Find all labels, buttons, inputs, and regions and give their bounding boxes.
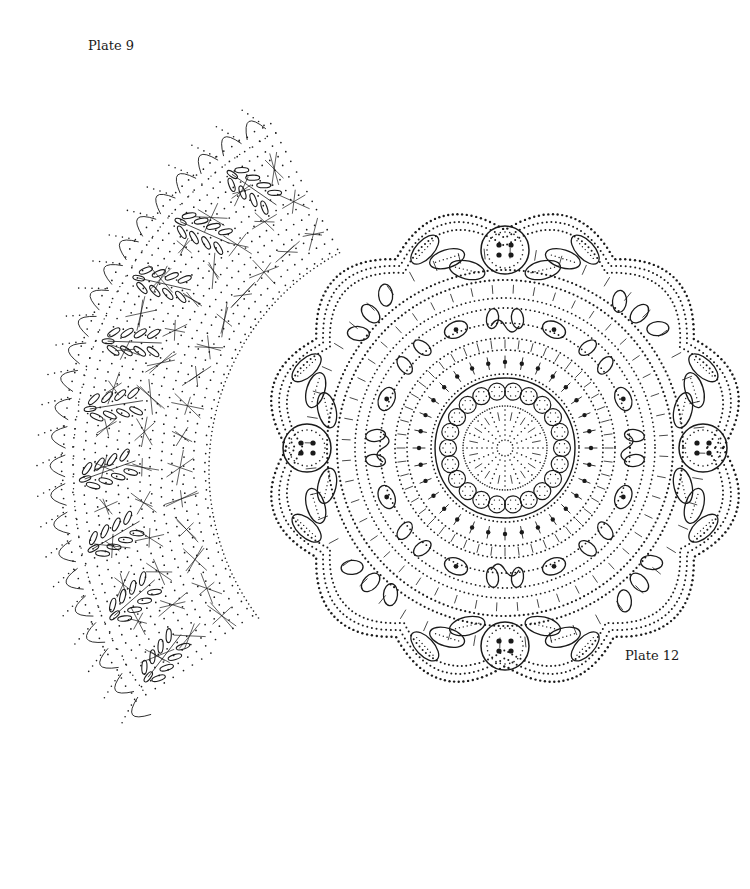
plate-12-doily-pricking <box>270 213 740 683</box>
lace-prickings-artwork <box>0 0 750 889</box>
plate-9-label: Plate 9 <box>88 38 134 53</box>
lace-pattern-page: Plate 9 Plate 12 <box>0 0 750 889</box>
plate-12-label: Plate 12 <box>625 648 679 663</box>
plate-9-edging-pricking <box>36 109 340 723</box>
